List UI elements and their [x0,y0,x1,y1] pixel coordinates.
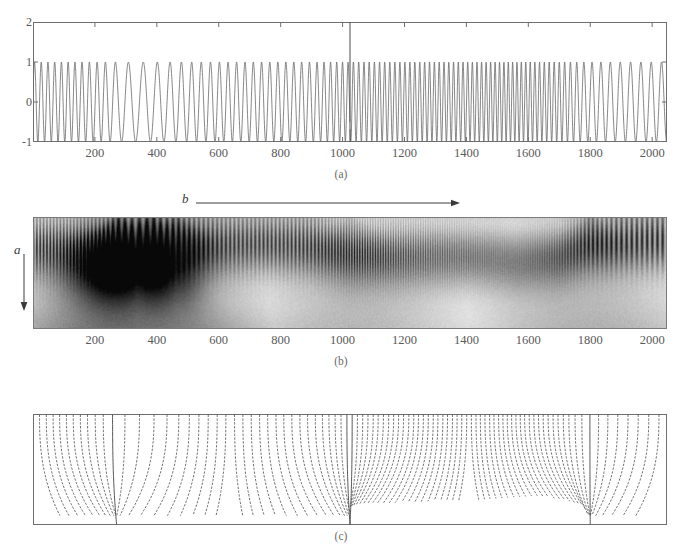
maxima-line [260,415,276,515]
scale-axis-arrow-icon [17,254,31,312]
x-tick-label: 600 [209,146,228,160]
maxima-line [367,415,393,504]
maxima-line [284,415,308,515]
x-tick-label: 1200 [392,333,417,347]
panel-a-signal: -1012 2004006008001000120014001600180020… [0,0,682,190]
maxima-line [350,415,352,524]
maxima-line [120,415,139,515]
maxima-line [66,415,92,515]
maxima-line [372,415,398,503]
y-tick-label: 0 [26,96,32,108]
y-tick-label: -1 [22,136,32,148]
modulus-maxima-plot-area [33,414,667,525]
x-tick-label: 800 [271,146,290,160]
x-tick-label: 800 [271,333,290,347]
maxima-line [60,415,86,515]
maxima-line [359,415,383,504]
maxima-line [563,415,585,508]
maxima-line [356,415,378,505]
y-tick-label: 2 [26,16,32,28]
signal-svg [33,22,667,142]
x-tick-label: 200 [86,146,105,160]
panel-c-modulus-maxima: (c) [0,378,682,553]
maxima-line [315,415,340,515]
scalogram-canvas [34,218,666,328]
maxima-line [402,415,423,502]
panel-a-x-axis-labels: 200400600800100012001400160018002000 [33,146,667,162]
x-tick-label: 1200 [392,146,417,160]
maxima-line [308,415,334,515]
maxima-line [352,415,368,506]
maxima-line [623,415,648,515]
translation-axis-letter: b [182,191,189,207]
maxima-line [490,415,502,498]
x-tick-label: 2000 [640,146,665,160]
maxima-line [512,415,532,496]
wavelet-figure: -1012 2004006008001000120014001600180020… [0,0,682,553]
x-tick-label: 2000 [640,333,665,347]
maxima-line [603,415,628,515]
maxima-line [103,415,115,515]
maxima-line [276,415,297,515]
translation-axis-arrow-icon [196,196,461,210]
maxima-line [636,415,659,515]
x-tick-label: 400 [147,333,166,347]
scalogram-image-area [33,217,667,329]
maxima-line [354,415,374,505]
maxima-line [421,415,438,501]
maxima-line [596,415,618,515]
maxima-line [363,415,389,504]
x-tick-label: 400 [147,146,166,160]
maxima-line [534,415,560,499]
signal-trace [33,62,350,142]
maxima-line [113,415,117,524]
x-tick-label: 200 [86,333,105,347]
maxima-line [592,415,608,515]
y-tick-label: 1 [26,56,32,68]
maxima-line [539,415,565,500]
maxima-line [503,415,520,496]
modulus-maxima-svg [33,414,667,525]
panel-c-frame [34,415,667,525]
panel-b-x-axis-labels: 200400600800100012001400160018002000 [33,333,667,349]
maxima-line [180,415,198,515]
maxima-line [494,415,508,497]
maxima-line [216,415,226,515]
maxima-line [117,415,125,515]
maxima-line [590,415,598,515]
panel-a-caption: (a) [0,168,682,180]
maxima-line [205,415,217,515]
maxima-line [347,415,350,524]
signal-trace [350,62,667,142]
x-tick-label: 1000 [330,146,355,160]
maxima-line [434,415,447,501]
x-tick-label: 1000 [330,333,355,347]
x-tick-label: 1800 [578,146,603,160]
x-tick-label: 1600 [516,333,541,347]
maxima-line [300,415,326,515]
maxima-line [129,415,154,515]
panel-c-caption: (c) [0,530,682,542]
maxima-line [384,415,409,503]
maxima-line [268,415,286,515]
maxima-line [193,415,208,515]
x-tick-label: 600 [209,333,228,347]
maxima-line [235,415,243,515]
panel-b-caption: (b) [0,355,682,367]
maxima-line [553,415,578,503]
x-tick-label: 1400 [454,333,479,347]
panel-a-y-axis-labels: -1012 [16,22,32,142]
maxima-line [95,415,113,515]
maxima-line [40,415,60,515]
maxima-line [582,415,590,515]
maxima-line [525,415,549,497]
panel-b-scalogram: a b 200400600800100012001400160018002000… [0,190,682,378]
maxima-line [612,415,638,515]
x-tick-label: 1600 [516,146,541,160]
x-tick-label: 1800 [578,333,603,347]
signal-plot-area [33,22,667,142]
x-tick-label: 1400 [454,146,479,160]
maxima-line [520,415,543,496]
